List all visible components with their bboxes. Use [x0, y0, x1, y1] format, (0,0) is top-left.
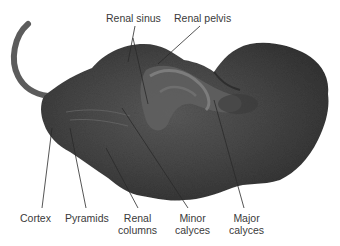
label-renal-columns-line1: Renal — [118, 212, 157, 224]
leader-cortex — [42, 128, 52, 208]
kidney-illustration — [0, 0, 340, 246]
label-major-calyces-line2: calyces — [229, 224, 264, 236]
label-renal-columns-line2: columns — [118, 224, 157, 236]
label-minor-calyces-line1: Minor — [175, 212, 210, 224]
label-pyramids: Pyramids — [65, 212, 109, 224]
label-renal-columns: Renal columns — [118, 212, 157, 236]
label-renal-pelvis: Renal pelvis — [174, 12, 231, 24]
lower-pole-shade — [218, 94, 258, 114]
kidney-figure: Renal sinus Renal pelvis Cortex Pyramids… — [0, 0, 340, 246]
kidney-body — [41, 43, 329, 201]
label-major-calyces: Major calyces — [229, 212, 264, 236]
label-renal-sinus: Renal sinus — [106, 12, 161, 24]
label-minor-calyces-line2: calyces — [175, 224, 210, 236]
label-major-calyces-line1: Major — [229, 212, 264, 224]
ureter-strand — [14, 24, 48, 96]
label-cortex: Cortex — [20, 212, 51, 224]
label-minor-calyces: Minor calyces — [175, 212, 210, 236]
